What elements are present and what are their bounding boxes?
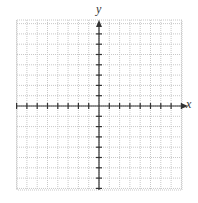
y-axis-label: y bbox=[96, 2, 101, 17]
coordinate-grid bbox=[0, 0, 198, 203]
x-axis-label: x bbox=[186, 97, 191, 112]
